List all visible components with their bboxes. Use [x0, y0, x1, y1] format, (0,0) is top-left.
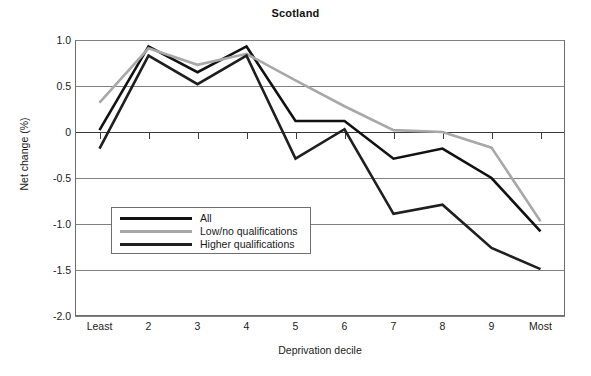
x-tick-label: 2	[146, 320, 152, 332]
legend-swatch-line-icon	[120, 243, 192, 246]
x-tick-label: 9	[489, 320, 495, 332]
legend-item-label: Low/no qualifications	[200, 226, 297, 237]
y-tick-label: -1.0	[33, 218, 71, 230]
y-axis-tick-labels: 1.00.50-0.5-1.0-1.5-2.0	[27, 40, 71, 316]
legend-item: Higher qualifications	[120, 238, 310, 251]
x-tick-label: 5	[293, 320, 299, 332]
legend-swatch-line-icon	[120, 217, 192, 220]
x-axis-tick-labels: Least23456789Most	[75, 320, 565, 336]
x-tick-label: 7	[391, 320, 397, 332]
x-tick-label: 6	[342, 320, 348, 332]
gridline--2-0	[75, 316, 565, 317]
chart-title: Scotland	[0, 7, 591, 19]
legend-item: All	[120, 212, 310, 225]
y-tick-label: -2.0	[33, 310, 71, 322]
x-axis-title: Deprivation decile	[75, 344, 565, 356]
legend: AllLow/no qualificationsHigher qualifica…	[111, 207, 311, 254]
x-tick-label: 8	[440, 320, 446, 332]
legend-item-label: Higher qualifications	[200, 239, 295, 250]
x-tick-label: Least	[87, 320, 113, 332]
y-tick-label: 0.5	[33, 80, 71, 92]
legend-swatch-line-icon	[120, 230, 192, 233]
y-tick-label: 1.0	[33, 34, 71, 46]
x-tick-label: 4	[244, 320, 250, 332]
y-tick-label: -1.5	[33, 264, 71, 276]
y-tick-label: 0	[33, 126, 71, 138]
plot-frame	[75, 40, 565, 316]
plot-area	[75, 40, 565, 316]
legend-item: Low/no qualifications	[120, 225, 310, 238]
chart-container: Scotland Net change (%) 1.00.50-0.5-1.0-…	[0, 0, 591, 376]
legend-item-label: All	[200, 213, 212, 224]
y-tick-label: -0.5	[33, 172, 71, 184]
x-tick-label: 3	[195, 320, 201, 332]
x-tick-label: Most	[529, 320, 552, 332]
